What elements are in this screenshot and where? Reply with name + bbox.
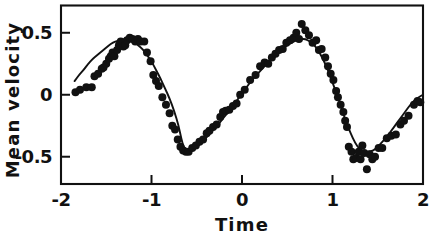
data-point xyxy=(158,93,166,101)
fit-curve xyxy=(75,39,423,152)
y-tick-label: 0 xyxy=(40,84,52,105)
data-point xyxy=(392,130,400,138)
data-point xyxy=(88,83,96,91)
data-point xyxy=(358,142,366,150)
x-tick-label: -1 xyxy=(142,189,161,210)
data-point xyxy=(166,109,174,117)
y-tick-label: 0.5 xyxy=(22,22,52,43)
scatter-plot: -2-10120.50-0.5 Time Mean velocity xyxy=(0,0,439,237)
data-point xyxy=(213,121,221,129)
tick-marks-group xyxy=(61,33,333,184)
data-point xyxy=(305,31,313,39)
data-point xyxy=(174,135,182,143)
data-point xyxy=(143,49,151,57)
data-point xyxy=(155,82,163,90)
y-axis-title: Mean velocity xyxy=(2,22,23,179)
data-point xyxy=(171,125,179,133)
data-point xyxy=(295,35,303,43)
data-point xyxy=(324,62,332,70)
data-point xyxy=(162,101,170,109)
data-point xyxy=(140,37,148,45)
data-point xyxy=(371,153,379,161)
data-point xyxy=(233,99,241,107)
data-point xyxy=(252,71,260,79)
data-point xyxy=(339,108,347,116)
data-point xyxy=(378,144,386,152)
data-point xyxy=(334,93,342,101)
data-point xyxy=(343,123,351,131)
x-tick-label: 1 xyxy=(326,189,338,210)
data-point xyxy=(321,54,329,62)
figure-container: -2-10120.50-0.5 Time Mean velocity xyxy=(0,0,439,237)
x-tick-label: -2 xyxy=(52,189,71,210)
data-point xyxy=(405,112,413,120)
data-point xyxy=(416,98,424,106)
data-point xyxy=(241,86,249,94)
data-point xyxy=(337,101,345,109)
data-point xyxy=(329,76,337,84)
data-point xyxy=(363,165,371,173)
data-point xyxy=(147,57,155,65)
data-point xyxy=(312,36,320,44)
x-axis-title: Time xyxy=(215,214,269,235)
data-point xyxy=(318,45,326,53)
x-tick-label: 0 xyxy=(236,189,248,210)
x-tick-label: 2 xyxy=(417,189,429,210)
